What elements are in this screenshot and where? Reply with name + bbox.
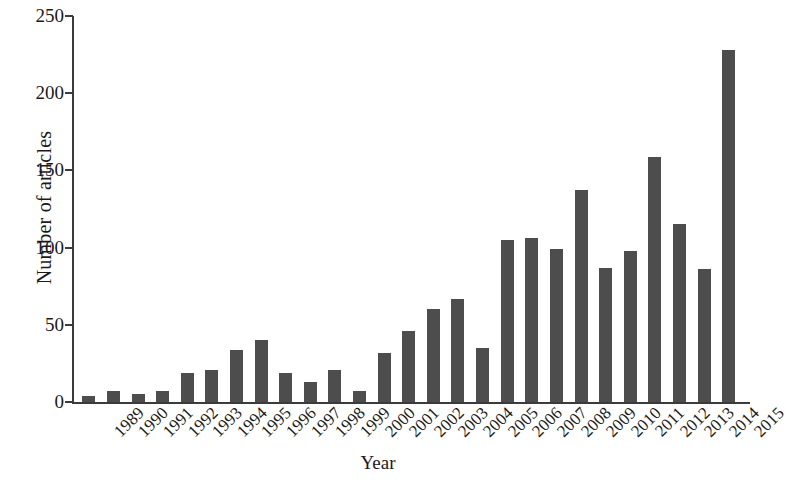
bar	[673, 224, 686, 402]
bar	[279, 373, 292, 402]
plot-area	[72, 16, 750, 402]
bar	[427, 309, 440, 402]
bar	[648, 157, 661, 402]
bar	[525, 238, 538, 402]
bar	[402, 331, 415, 402]
y-tick-label: 50	[18, 315, 64, 334]
bar	[476, 348, 489, 402]
bar	[205, 370, 218, 402]
y-tick-label: 150	[18, 160, 64, 179]
y-tick-label: 200	[18, 83, 64, 102]
bar	[353, 391, 366, 402]
bar-series	[72, 16, 750, 402]
bar	[156, 391, 169, 402]
bar	[82, 396, 95, 402]
y-tick-label: 100	[18, 238, 64, 257]
x-axis-label-text: Year	[360, 452, 395, 473]
bar	[132, 394, 145, 402]
bar	[230, 350, 243, 402]
bar	[722, 50, 735, 402]
bar	[575, 190, 588, 402]
bar	[328, 370, 341, 402]
bar	[181, 373, 194, 402]
x-axis-label: Year	[0, 452, 756, 474]
bar	[501, 240, 514, 402]
bar	[378, 353, 391, 402]
bar	[599, 268, 612, 402]
y-axis-tick-labels: 050100150200250	[12, 0, 64, 482]
bar	[255, 340, 268, 402]
bar	[107, 391, 120, 402]
bar	[304, 382, 317, 402]
y-tick-label: 250	[18, 6, 64, 25]
bar	[698, 269, 711, 402]
y-tick-label: 0	[18, 392, 64, 411]
bar	[550, 249, 563, 402]
bar	[624, 251, 637, 402]
bar	[451, 299, 464, 402]
